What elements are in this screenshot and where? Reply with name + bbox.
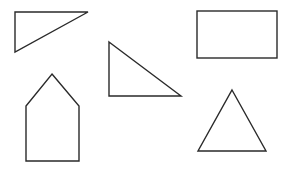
triangle <box>198 90 266 151</box>
rectangle <box>197 11 277 58</box>
pentagon-house <box>26 74 79 161</box>
shapes-diagram <box>0 0 292 170</box>
right-triangle-top-left <box>15 12 88 52</box>
right-triangle-middle <box>109 42 181 96</box>
